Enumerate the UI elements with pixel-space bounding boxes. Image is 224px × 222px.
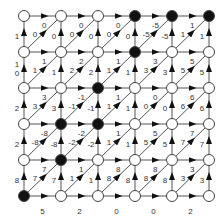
diagonal-edge-label: 2 (70, 66, 75, 75)
white-node (56, 83, 67, 94)
vertical-edge-label: 1 (15, 32, 20, 41)
vertical-edge-label: -1 (87, 104, 95, 113)
white-node (93, 47, 104, 58)
vertical-edge-label: -5 (161, 32, 169, 41)
white-node (56, 191, 67, 202)
white-node (204, 119, 215, 130)
horizontal-edge-label: 8 (153, 165, 158, 174)
black-node (19, 191, 30, 202)
diagonal-edge-label: 3 (181, 174, 186, 183)
black-node (93, 119, 104, 130)
vertical-edge-label: 3 (200, 176, 205, 185)
vertical-edge-label: 2 (15, 140, 20, 149)
vertical-edge-label: 7 (200, 140, 205, 149)
vertical-edge-label: 1 (15, 60, 20, 69)
white-node (93, 191, 104, 202)
diagonal-edge-label: 1 (107, 102, 112, 111)
grid-graph-diagram: 1000-51000-51000-511012135121351213523-1… (0, 0, 224, 222)
horizontal-edge-label: 5 (190, 57, 195, 66)
horizontal-edge-label: 8 (116, 165, 121, 174)
horizontal-edge-label: 1 (116, 57, 121, 66)
horizontal-edge-label: 1 (116, 129, 121, 138)
vertical-edge-label: 1 (52, 68, 57, 77)
bottom-edge-label: 2 (188, 207, 193, 216)
horizontal-edge-label: 7 (42, 165, 47, 174)
horizontal-edge-label: 5 (153, 129, 158, 138)
horizontal-edge-label: 3 (42, 93, 47, 102)
diagonal-edge-label: 0 (107, 30, 112, 39)
black-node (167, 11, 178, 22)
vertical-edge-label: 1 (89, 176, 94, 185)
horizontal-edge-label: 1 (79, 165, 84, 174)
diagonal-edge-label: 5 (181, 66, 186, 75)
vertical-edge-label: 0 (126, 32, 131, 41)
vertical-edge-label: 8 (126, 176, 131, 185)
horizontal-edge-label: 0 (42, 21, 47, 30)
vertical-edge-label: 1 (126, 68, 131, 77)
horizontal-edge-label: 7 (190, 129, 195, 138)
white-node (130, 155, 141, 166)
white-node (204, 47, 215, 58)
horizontal-edge-label: 1 (116, 93, 121, 102)
vertical-edge-label: 2 (89, 68, 94, 77)
white-node (204, 83, 215, 94)
horizontal-edge-label: 0 (79, 21, 84, 30)
diagonal-edge-label: 3 (33, 102, 38, 111)
white-node (204, 191, 215, 202)
black-node (204, 11, 215, 22)
diagonal-edge-label: -8 (32, 138, 40, 147)
horizontal-edge-label: -8 (41, 129, 49, 138)
white-node (167, 119, 178, 130)
white-node (167, 155, 178, 166)
black-node (93, 83, 104, 94)
diagonal-edge-label: -1 (69, 102, 77, 111)
diagonal-edge-label: 5 (144, 138, 149, 147)
vertical-edge-label: 7 (52, 176, 57, 185)
vertical-edge-label: 1 (200, 32, 205, 41)
black-node (130, 11, 141, 22)
vertical-edge-label: -8 (50, 140, 58, 149)
horizontal-edge-label: 2 (79, 57, 84, 66)
diagonal-edge-label: 1 (107, 138, 112, 147)
vertical-edge-label: 6 (200, 104, 205, 113)
diagonal-edge-label: 1 (70, 174, 75, 183)
bottom-edge-label: 0 (151, 207, 156, 216)
vertical-edge-label: 3 (163, 68, 168, 77)
horizontal-edge-label: -5 (152, 21, 160, 30)
bottom-edge-label: 2 (77, 207, 82, 216)
diagonal-edge-label: 6 (181, 102, 186, 111)
horizontal-edge-label: 0 (153, 93, 158, 102)
vertical-edge-label: 0 (15, 69, 20, 78)
white-node (56, 47, 67, 58)
white-node (130, 191, 141, 202)
white-node (19, 47, 30, 58)
white-node (204, 155, 215, 166)
diagonal-edge-label: 3 (144, 66, 149, 75)
horizontal-edge-label: 6 (190, 93, 195, 102)
white-node (167, 191, 178, 202)
diagonal-edge-label: -5 (143, 30, 151, 39)
diagonal-edge-label: 1 (181, 30, 186, 39)
white-node (19, 11, 30, 22)
vertical-edge-label: 5 (163, 140, 168, 149)
vertical-edge-label: 0 (52, 32, 57, 41)
white-node (167, 83, 178, 94)
white-node (167, 47, 178, 58)
diagonal-edge-label: 1 (33, 66, 38, 75)
black-node (56, 119, 67, 130)
horizontal-edge-label: 0 (116, 21, 121, 30)
white-node (130, 119, 141, 130)
horizontal-edge-label: -2 (78, 129, 86, 138)
white-node (130, 83, 141, 94)
white-node (56, 11, 67, 22)
white-node (19, 155, 30, 166)
white-node (93, 11, 104, 22)
vertical-edge-label: 3 (52, 104, 57, 113)
vertical-edge-label: 1 (126, 140, 131, 149)
white-node (19, 83, 30, 94)
black-node (56, 155, 67, 166)
horizontal-edge-label: 3 (190, 165, 195, 174)
diagonal-edge-label: 7 (33, 174, 38, 183)
diagonal-edge-label: 8 (107, 174, 112, 183)
diagonal-edge-label: 1 (107, 66, 112, 75)
